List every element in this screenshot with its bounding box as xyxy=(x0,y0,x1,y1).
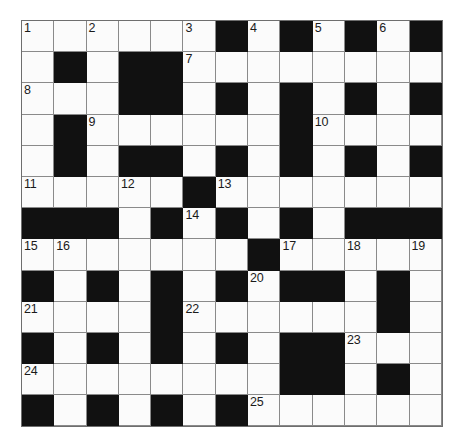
letter-cell[interactable]: 18 xyxy=(345,239,377,270)
letter-cell[interactable]: 5 xyxy=(313,21,345,52)
letter-cell[interactable] xyxy=(313,177,345,208)
letter-cell[interactable] xyxy=(377,395,409,426)
letter-cell[interactable] xyxy=(216,364,248,395)
letter-cell[interactable] xyxy=(183,271,215,302)
letter-cell[interactable] xyxy=(151,21,183,52)
letter-cell[interactable] xyxy=(280,177,312,208)
letter-cell[interactable]: 19 xyxy=(410,239,442,270)
letter-cell[interactable]: 13 xyxy=(216,177,248,208)
letter-cell[interactable] xyxy=(119,395,151,426)
letter-cell[interactable] xyxy=(119,239,151,270)
letter-cell[interactable]: 11 xyxy=(22,177,54,208)
letter-cell[interactable]: 12 xyxy=(119,177,151,208)
letter-cell[interactable]: 3 xyxy=(183,21,215,52)
letter-cell[interactable]: 9 xyxy=(87,115,119,146)
letter-cell[interactable] xyxy=(248,364,280,395)
letter-cell[interactable] xyxy=(345,271,377,302)
letter-cell[interactable]: 6 xyxy=(377,21,409,52)
letter-cell[interactable] xyxy=(151,239,183,270)
letter-cell[interactable] xyxy=(248,146,280,177)
letter-cell[interactable] xyxy=(119,271,151,302)
letter-cell[interactable] xyxy=(248,302,280,333)
letter-cell[interactable] xyxy=(345,302,377,333)
letter-cell[interactable] xyxy=(216,239,248,270)
letter-cell[interactable]: 21 xyxy=(22,302,54,333)
letter-cell[interactable] xyxy=(377,239,409,270)
letter-cell[interactable] xyxy=(410,271,442,302)
letter-cell[interactable] xyxy=(183,115,215,146)
letter-cell[interactable] xyxy=(151,364,183,395)
letter-cell[interactable] xyxy=(87,239,119,270)
letter-cell[interactable] xyxy=(54,271,86,302)
letter-cell[interactable] xyxy=(345,177,377,208)
letter-cell[interactable] xyxy=(280,395,312,426)
letter-cell[interactable]: 17 xyxy=(280,239,312,270)
letter-cell[interactable] xyxy=(119,115,151,146)
letter-cell[interactable] xyxy=(119,333,151,364)
letter-cell[interactable]: 1 xyxy=(22,21,54,52)
letter-cell[interactable] xyxy=(54,333,86,364)
letter-cell[interactable] xyxy=(22,146,54,177)
letter-cell[interactable] xyxy=(183,146,215,177)
letter-cell[interactable]: 20 xyxy=(248,271,280,302)
letter-cell[interactable] xyxy=(313,146,345,177)
letter-cell[interactable] xyxy=(183,364,215,395)
letter-cell[interactable] xyxy=(119,208,151,239)
letter-cell[interactable]: 25 xyxy=(248,395,280,426)
letter-cell[interactable] xyxy=(248,115,280,146)
letter-cell[interactable] xyxy=(54,83,86,114)
letter-cell[interactable] xyxy=(151,177,183,208)
letter-cell[interactable] xyxy=(410,177,442,208)
letter-cell[interactable] xyxy=(22,115,54,146)
letter-cell[interactable] xyxy=(377,115,409,146)
letter-cell[interactable] xyxy=(87,177,119,208)
letter-cell[interactable]: 16 xyxy=(54,239,86,270)
letter-cell[interactable] xyxy=(410,333,442,364)
letter-cell[interactable] xyxy=(119,302,151,333)
letter-cell[interactable] xyxy=(345,52,377,83)
letter-cell[interactable]: 10 xyxy=(313,115,345,146)
letter-cell[interactable] xyxy=(87,83,119,114)
letter-cell[interactable]: 23 xyxy=(345,333,377,364)
letter-cell[interactable] xyxy=(313,302,345,333)
letter-cell[interactable] xyxy=(183,333,215,364)
letter-cell[interactable] xyxy=(248,177,280,208)
letter-cell[interactable] xyxy=(345,395,377,426)
letter-cell[interactable] xyxy=(345,364,377,395)
letter-cell[interactable]: 2 xyxy=(87,21,119,52)
letter-cell[interactable] xyxy=(313,208,345,239)
letter-cell[interactable] xyxy=(410,52,442,83)
letter-cell[interactable] xyxy=(54,21,86,52)
letter-cell[interactable] xyxy=(377,83,409,114)
letter-cell[interactable] xyxy=(410,302,442,333)
letter-cell[interactable] xyxy=(183,83,215,114)
letter-cell[interactable] xyxy=(87,146,119,177)
letter-cell[interactable] xyxy=(410,364,442,395)
letter-cell[interactable] xyxy=(119,364,151,395)
letter-cell[interactable] xyxy=(216,52,248,83)
letter-cell[interactable] xyxy=(248,83,280,114)
letter-cell[interactable] xyxy=(119,21,151,52)
letter-cell[interactable]: 4 xyxy=(248,21,280,52)
letter-cell[interactable] xyxy=(313,83,345,114)
letter-cell[interactable] xyxy=(183,239,215,270)
letter-cell[interactable] xyxy=(410,395,442,426)
letter-cell[interactable] xyxy=(22,52,54,83)
letter-cell[interactable] xyxy=(248,52,280,83)
letter-cell[interactable] xyxy=(280,52,312,83)
letter-cell[interactable] xyxy=(54,177,86,208)
letter-cell[interactable] xyxy=(377,52,409,83)
letter-cell[interactable] xyxy=(377,146,409,177)
letter-cell[interactable] xyxy=(248,208,280,239)
letter-cell[interactable] xyxy=(151,115,183,146)
letter-cell[interactable]: 7 xyxy=(183,52,215,83)
letter-cell[interactable] xyxy=(377,177,409,208)
letter-cell[interactable]: 14 xyxy=(183,208,215,239)
letter-cell[interactable] xyxy=(87,302,119,333)
letter-cell[interactable]: 8 xyxy=(22,83,54,114)
letter-cell[interactable] xyxy=(280,302,312,333)
letter-cell[interactable] xyxy=(54,395,86,426)
letter-cell[interactable] xyxy=(313,239,345,270)
letter-cell[interactable] xyxy=(313,52,345,83)
letter-cell[interactable] xyxy=(216,302,248,333)
